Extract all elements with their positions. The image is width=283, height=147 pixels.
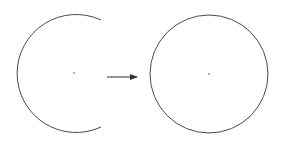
complete-circle-shape <box>150 15 268 133</box>
open-arc-shape <box>17 15 101 133</box>
complete-circle-center-dot <box>208 73 209 74</box>
open-arc-center-dot <box>73 72 74 73</box>
diagram-canvas <box>0 0 283 147</box>
